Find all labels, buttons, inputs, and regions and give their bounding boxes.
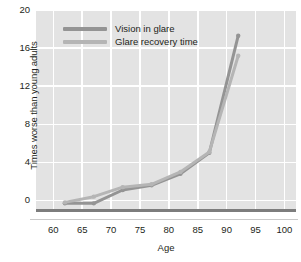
x-tick-label: 75 <box>125 224 155 235</box>
data-point-marker <box>236 34 240 38</box>
series-line-vision-in-glare <box>65 36 238 204</box>
chart-figure: 048121620 Vision in glare Glare recovery… <box>0 0 301 262</box>
x-tick-label: 100 <box>269 224 299 235</box>
data-point-marker <box>207 150 211 154</box>
series-line-glare-recovery-time <box>65 56 238 203</box>
legend-item-1: Glare recovery time <box>63 35 198 48</box>
data-point-marker <box>178 170 182 174</box>
chart-legend: Vision in glare Glare recovery time <box>63 22 198 48</box>
data-point-marker <box>236 54 240 58</box>
x-axis-title: Age <box>36 242 296 253</box>
x-tick-label: 90 <box>212 224 242 235</box>
x-tick-label: 60 <box>38 224 68 235</box>
legend-label-vision-in-glare: Vision in glare <box>115 23 175 34</box>
data-point-marker <box>92 201 96 205</box>
data-point-marker <box>149 182 153 186</box>
data-point-marker <box>63 200 67 204</box>
x-tick-label: 65 <box>67 224 97 235</box>
legend-swatch-glare-recovery-time <box>63 40 107 44</box>
legend-item-0: Vision in glare <box>63 22 198 35</box>
data-point-marker <box>92 194 96 198</box>
legend-label-glare-recovery-time: Glare recovery time <box>115 36 198 47</box>
x-tick-label: 95 <box>241 224 271 235</box>
x-tick-label: 80 <box>154 224 184 235</box>
y-axis-title: Times worse than young adults <box>28 21 39 191</box>
x-tick-label: 70 <box>96 224 126 235</box>
legend-swatch-vision-in-glare <box>63 27 107 31</box>
data-point-marker <box>120 185 124 189</box>
x-tick-label: 85 <box>183 224 213 235</box>
